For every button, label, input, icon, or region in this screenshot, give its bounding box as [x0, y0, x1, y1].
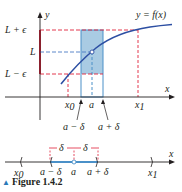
x-axis-arrow — [169, 95, 175, 100]
delta-left-label: δ — [59, 142, 64, 153]
nl-x1-label: x1 — [147, 167, 157, 180]
curve-label: y = f(x) — [135, 9, 167, 21]
a-label: a — [89, 99, 94, 110]
function-curve — [61, 25, 172, 85]
nl-a-label: a — [71, 166, 76, 177]
a-plus-delta-annotation: a + δ — [98, 121, 120, 132]
caption-triangle-icon: ▲ — [2, 178, 10, 187]
a-plus-delta-pointer-head — [101, 99, 105, 104]
number-line-hole — [72, 160, 76, 164]
x0-label: x0 — [64, 99, 74, 112]
delta-right-label: δ — [83, 142, 88, 153]
x1-label: x1 — [134, 99, 144, 112]
number-line-x-label: x — [168, 148, 174, 159]
L-minus-epsilon-label: L − ϵ — [4, 68, 27, 79]
limit-definition-figure: y x y = f(x) L + ϵ L L − ϵ x0 a x1 a − δ… — [0, 0, 182, 192]
y-axis-label: y — [44, 9, 50, 20]
a-minus-delta-annotation: a − δ — [63, 121, 85, 132]
nl-a-plus-delta-label: a + δ — [87, 166, 109, 177]
a-minus-delta-pointer-head — [79, 99, 83, 104]
y-axis-arrow — [38, 12, 43, 18]
limit-point-hole — [90, 50, 94, 54]
x-axis-label: x — [164, 83, 170, 94]
figure-caption: ▲Figure 1.4.2 — [2, 176, 63, 187]
L-label: L — [29, 46, 36, 57]
number-line-arrow — [169, 160, 175, 165]
L-plus-epsilon-label: L + ϵ — [4, 24, 27, 35]
caption-text: Figure 1.4.2 — [12, 176, 63, 187]
